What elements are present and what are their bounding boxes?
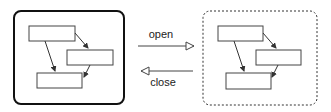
node-box	[29, 26, 75, 41]
node-box	[226, 73, 271, 89]
close-label: close	[133, 76, 193, 88]
closed-state-panel	[14, 11, 124, 104]
open-state-panel	[203, 11, 317, 105]
node-box	[256, 50, 301, 65]
open-label: open	[131, 28, 191, 40]
state-diagram	[0, 0, 331, 112]
node-box	[218, 26, 263, 41]
node-box	[67, 50, 113, 65]
node-box	[37, 73, 82, 88]
